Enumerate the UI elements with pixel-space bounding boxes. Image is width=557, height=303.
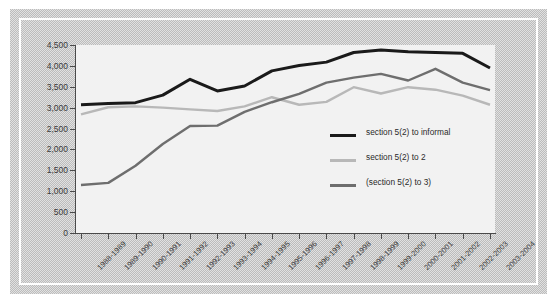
x-tick-mark (217, 234, 218, 239)
y-tick-label: 1,000 (22, 187, 68, 196)
y-tick-mark (70, 108, 75, 109)
x-tick-mark (108, 234, 109, 239)
legend-label: (section 5(2) to 3) (366, 178, 431, 188)
y-tick-mark (70, 191, 75, 192)
x-tick-mark (163, 234, 164, 239)
x-tick-mark (136, 234, 137, 239)
y-tick-label: 500 (22, 208, 68, 217)
y-tick-label: 3,000 (22, 104, 68, 113)
legend-item: section 5(2) to informal (330, 126, 490, 151)
y-tick-mark (70, 233, 75, 234)
legend-swatch (330, 134, 356, 137)
y-tick-mark (70, 87, 75, 88)
legend-item: (section 5(2) to 3) (330, 176, 490, 201)
y-tick-label: 4,000 (22, 62, 68, 71)
legend-item: section 5(2) to 2 (330, 151, 490, 176)
y-tick-label: 4,500 (22, 41, 68, 50)
series-line (81, 50, 490, 105)
x-tick-mark (326, 234, 327, 239)
x-tick-mark (245, 234, 246, 239)
legend-swatch (330, 159, 356, 162)
y-tick-mark (70, 170, 75, 171)
legend-label: section 5(2) to 2 (366, 153, 426, 163)
x-axis-line (75, 233, 496, 234)
x-tick-mark (381, 234, 382, 239)
legend-swatch (330, 184, 356, 187)
x-tick-mark (354, 234, 355, 239)
chart-figure: 4,5004,0003,5003,0002,5002,0001,5001,000… (0, 0, 557, 303)
y-tick-mark (70, 129, 75, 130)
legend-label: section 5(2) to informal (366, 128, 450, 138)
y-tick-mark (70, 212, 75, 213)
y-tick-mark (70, 66, 75, 67)
x-tick-mark (408, 234, 409, 239)
chart-legend: section 5(2) to informalsection 5(2) to … (330, 126, 490, 201)
x-tick-mark (299, 234, 300, 239)
x-tick-mark (435, 234, 436, 239)
y-tick-label: 1,500 (22, 166, 68, 175)
y-tick-mark (70, 149, 75, 150)
y-tick-label: 2,000 (22, 145, 68, 154)
y-tick-label: 3,500 (22, 83, 68, 92)
x-tick-mark (490, 234, 491, 239)
y-tick-mark (70, 45, 75, 46)
x-tick-mark (272, 234, 273, 239)
x-tick-mark (81, 234, 82, 239)
x-tick-mark (190, 234, 191, 239)
y-tick-label: 0 (22, 229, 68, 238)
y-tick-label: 2,500 (22, 125, 68, 134)
x-tick-mark (463, 234, 464, 239)
